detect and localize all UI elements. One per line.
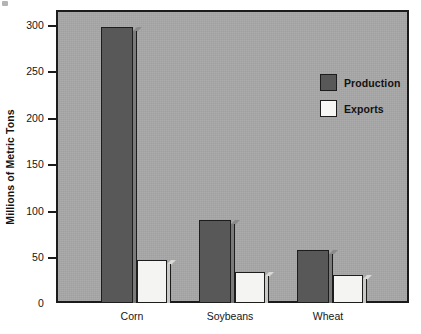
y-tick-300 — [48, 25, 58, 27]
bar-face — [297, 250, 329, 303]
legend-label-production: Production — [344, 77, 400, 89]
y-tick-label: 300 — [26, 19, 44, 31]
bar-face — [333, 275, 363, 303]
bar-soybeans-exports[interactable] — [235, 272, 265, 303]
x-axis-label-corn: Corn — [121, 310, 144, 322]
y-tick-label: 50 — [32, 251, 44, 263]
y-axis-tick-labels: 300 250 200 150 100 50 0 — [0, 0, 56, 334]
legend-swatch-production-icon — [320, 74, 337, 91]
y-tick-150 — [48, 164, 58, 166]
legend-item-production[interactable]: Production — [320, 74, 400, 91]
y-tick-50 — [48, 257, 58, 259]
chart-root: Millions of Metric Tons 300 250 200 150 … — [0, 0, 421, 334]
y-tick-200 — [48, 118, 58, 120]
y-tick-label: 250 — [26, 65, 44, 77]
bar-face — [199, 220, 231, 303]
legend-label-exports: Exports — [344, 103, 384, 115]
bar-face — [137, 260, 167, 303]
y-tick-label: 0 — [38, 297, 44, 309]
bar-soybeans-production[interactable] — [199, 220, 231, 303]
bar-corn-exports[interactable] — [137, 260, 167, 303]
y-tick-label: 200 — [26, 112, 44, 124]
legend-swatch-exports-icon — [320, 100, 337, 117]
bar-face — [101, 27, 133, 303]
bar-wheat-exports[interactable] — [333, 275, 363, 303]
bar-wheat-production[interactable] — [297, 250, 329, 303]
bar-corn-production[interactable] — [101, 27, 133, 303]
y-tick-label: 150 — [26, 158, 44, 170]
plot-area: Production Exports — [56, 10, 409, 303]
y-tick-250 — [48, 71, 58, 73]
y-tick-100 — [48, 211, 58, 213]
x-axis-label-soybeans: Soybeans — [207, 310, 254, 322]
x-axis-label-wheat: Wheat — [313, 310, 343, 322]
bar-3d-side — [363, 279, 367, 303]
bar-face — [235, 272, 265, 303]
y-tick-label: 100 — [26, 205, 44, 217]
bar-3d-side — [265, 276, 269, 303]
bar-3d-side — [167, 264, 171, 303]
legend-item-exports[interactable]: Exports — [320, 100, 384, 117]
